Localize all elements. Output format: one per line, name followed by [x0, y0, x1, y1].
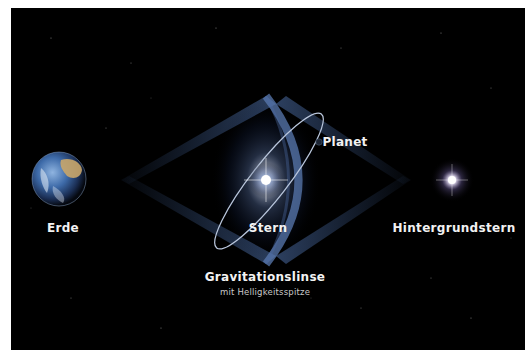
- earth-icon: [32, 152, 86, 206]
- star-label: Stern: [249, 221, 287, 235]
- planet-label: Planet: [322, 135, 367, 149]
- lens-title: Gravitationslinse: [205, 270, 326, 284]
- diagram-panel: Erde Stern Planet Hintergrundstern Gravi…: [11, 8, 525, 350]
- planet-icon: [316, 139, 322, 145]
- lens-subtitle: mit Helligkeitsspitze: [220, 287, 310, 297]
- diagram-graphic: [11, 8, 525, 350]
- background-star-label: Hintergrundstern: [393, 221, 516, 235]
- background-star-icon: [430, 158, 474, 202]
- earth-label: Erde: [47, 221, 79, 235]
